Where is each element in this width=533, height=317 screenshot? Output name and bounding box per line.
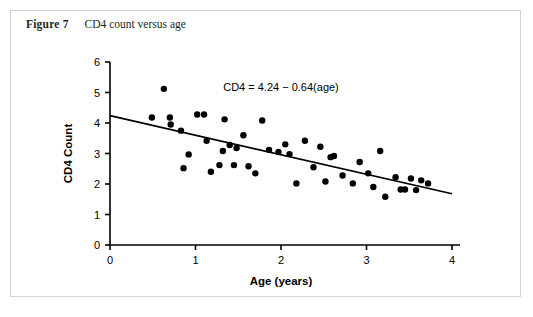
y-tick-label: 1 bbox=[94, 209, 100, 221]
data-point bbox=[293, 180, 299, 186]
x-axis-title: Age (years) bbox=[250, 275, 313, 287]
data-point bbox=[310, 164, 316, 170]
data-point bbox=[356, 159, 362, 165]
data-point bbox=[161, 86, 167, 92]
data-point bbox=[240, 132, 246, 138]
y-axis: 0123456 bbox=[94, 56, 110, 251]
data-point bbox=[245, 163, 251, 169]
regression-line bbox=[110, 116, 452, 194]
fit-line bbox=[110, 116, 452, 194]
x-tick-label: 2 bbox=[278, 254, 284, 266]
data-point bbox=[194, 111, 200, 117]
data-point bbox=[168, 121, 174, 127]
data-point bbox=[322, 178, 328, 184]
data-point bbox=[317, 144, 323, 150]
y-tick-label: 2 bbox=[94, 178, 100, 190]
equation-annotation: CD4 = 4.24 − 0.64(age) bbox=[223, 81, 339, 93]
data-point bbox=[259, 117, 265, 123]
equation-text: CD4 = 4.24 − 0.64(age) bbox=[223, 81, 339, 93]
data-point bbox=[382, 194, 388, 200]
data-point bbox=[408, 175, 414, 181]
x-tick-label: 3 bbox=[363, 254, 369, 266]
data-point bbox=[425, 180, 431, 186]
data-point bbox=[167, 114, 173, 120]
y-tick-label: 6 bbox=[94, 56, 100, 68]
data-point bbox=[302, 137, 308, 143]
x-tick-label: 4 bbox=[449, 254, 455, 266]
y-tick-label: 4 bbox=[94, 117, 100, 129]
x-tick-label: 1 bbox=[192, 254, 198, 266]
data-point bbox=[231, 162, 237, 168]
x-axis: 01234 bbox=[107, 245, 460, 266]
data-point bbox=[208, 169, 214, 175]
data-point bbox=[413, 187, 419, 193]
data-point bbox=[216, 162, 222, 168]
data-point bbox=[370, 184, 376, 190]
y-axis-title: CD4 Count bbox=[62, 124, 74, 184]
data-point bbox=[282, 141, 288, 147]
scatter-plot: 0123456 01234 CD4 = 4.24 − 0.64(age) Age… bbox=[0, 0, 533, 317]
data-point bbox=[180, 165, 186, 171]
data-point bbox=[220, 148, 226, 154]
data-point bbox=[377, 148, 383, 154]
y-tick-label: 0 bbox=[94, 239, 100, 251]
data-point bbox=[201, 111, 207, 117]
data-point bbox=[221, 116, 227, 122]
data-point bbox=[331, 153, 337, 159]
data-point bbox=[418, 177, 424, 183]
data-point bbox=[350, 180, 356, 186]
data-point bbox=[149, 114, 155, 120]
data-point bbox=[339, 172, 345, 178]
data-point bbox=[185, 151, 191, 157]
x-tick-label: 0 bbox=[107, 254, 113, 266]
y-tick-label: 5 bbox=[94, 87, 100, 99]
y-tick-label: 3 bbox=[94, 148, 100, 160]
data-point bbox=[252, 170, 258, 176]
data-points bbox=[149, 86, 432, 200]
data-point bbox=[402, 186, 408, 192]
